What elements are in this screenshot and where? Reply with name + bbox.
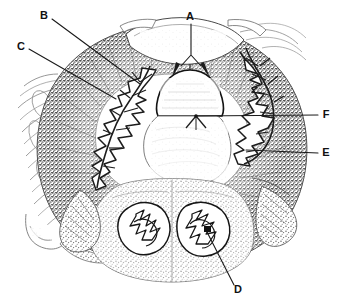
cross-section-illustration: A B C D E F [0, 0, 344, 308]
label-C: C [17, 40, 25, 52]
label-F: F [323, 108, 330, 120]
central-lower-body [144, 114, 231, 185]
label-B: B [40, 9, 48, 21]
lower-mass [88, 178, 260, 284]
label-E: E [322, 146, 329, 158]
label-D: D [234, 283, 242, 295]
lower-lobe-right [177, 202, 230, 256]
lower-lobe-left [118, 203, 170, 255]
label-A: A [186, 10, 194, 22]
figure-container: A B C D E F [0, 0, 344, 308]
